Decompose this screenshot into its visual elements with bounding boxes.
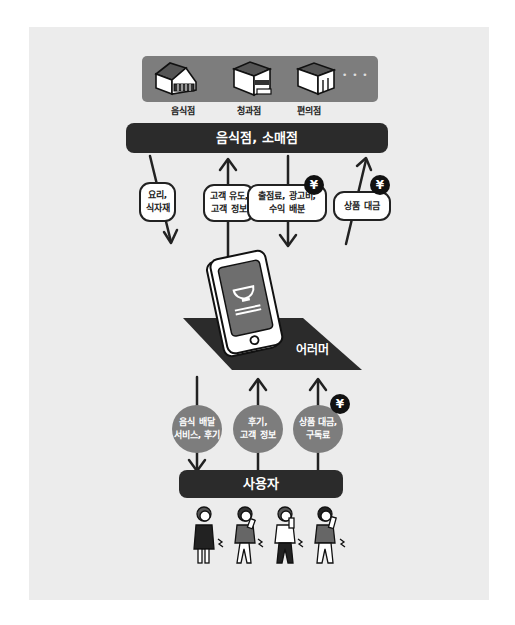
user-figure-icon [275, 507, 303, 563]
flow-label-line1: 상품 대금, [299, 417, 338, 427]
flow-label-line2: 서비스, 후기 [174, 430, 221, 440]
flow-label-line1: 음식 배달 [179, 417, 214, 427]
flow-label-reviews: 후기,고객 정보 [233, 405, 283, 453]
flow-label-line1: 후기, [248, 417, 267, 427]
platform-label: 어러머 [296, 340, 329, 357]
users-bar-label: 사용자 [243, 476, 279, 491]
user-figure-icon [194, 507, 223, 563]
users-bar: 사용자 [179, 470, 343, 498]
flow-label-line2: 구독료 [306, 430, 330, 440]
users-illustration [190, 505, 360, 570]
user-figure-icon [315, 507, 345, 563]
smartphone-bowl-icon [207, 250, 287, 360]
user-figure-icon [235, 507, 263, 563]
flow-label-line2: 고객 정보 [240, 430, 275, 440]
yen-badge-subscription: ¥ [330, 394, 350, 414]
flow-label-delivery-service: 음식 배달서비스, 후기 [172, 405, 222, 453]
